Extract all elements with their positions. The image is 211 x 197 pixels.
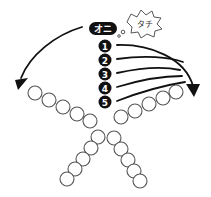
tag-game-diagram: オニ タチ 1 2 3 4 5 [0, 0, 211, 197]
player-badge-5: 5 [99, 96, 112, 109]
player-badge-4: 4 [99, 82, 112, 95]
speech-bubble-text: タチ [137, 20, 153, 29]
player-number: 5 [102, 98, 108, 108]
player-badge-2: 2 [99, 54, 112, 67]
ring-chain-upper-left [28, 86, 97, 128]
player-number: 4 [102, 84, 108, 94]
left-arrow [15, 27, 82, 90]
ring-chain-lower-left [60, 130, 105, 186]
player-number: 2 [102, 56, 108, 66]
player-badge-3: 3 [99, 68, 112, 81]
player-number: 3 [102, 70, 108, 80]
oni-badge: オニ [89, 22, 117, 35]
player-number: 1 [102, 42, 108, 52]
player-badge-1: 1 [99, 40, 112, 53]
right-arrow-head [186, 84, 200, 97]
oni-label: オニ [94, 24, 112, 34]
ring-chain-lower-right [107, 131, 147, 188]
speech-bubble: タチ [118, 10, 162, 38]
